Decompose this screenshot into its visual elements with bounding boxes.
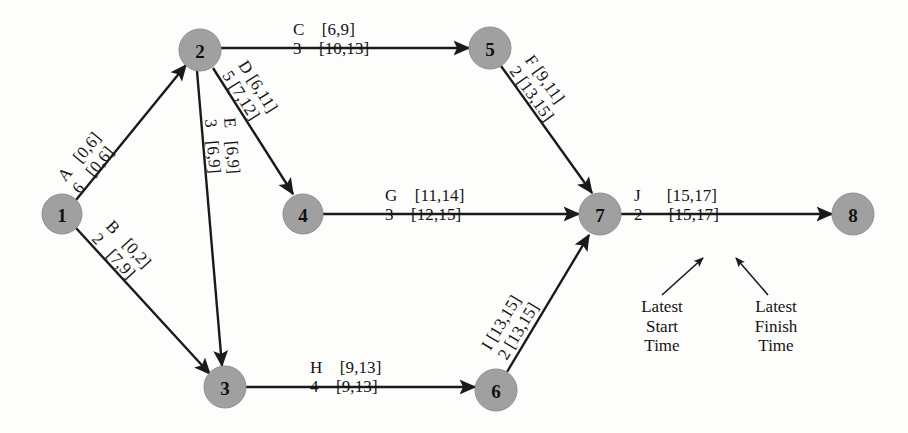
node-3-label: 3 — [220, 378, 230, 399]
edge-G-top: G [11,14] — [385, 186, 464, 205]
edge-J-top: J [15,17] — [634, 186, 719, 205]
edge-E-line — [197, 71, 222, 366]
latest-finish-line-3: Time — [718, 336, 834, 356]
edge-E-label: E [6,9] 3 [6,9] — [201, 117, 244, 177]
node-4[interactable]: 4 — [283, 194, 323, 234]
latest-finish-annotation: Latest Finish Time — [718, 297, 834, 356]
edge-H-top: H [9,13] — [310, 358, 381, 377]
edge-H-bottom: 4 [9,13] — [310, 377, 381, 396]
edge-C-label: C [6,9] 3 [10,13] — [293, 20, 369, 58]
latest-finish-line-1: Latest — [718, 297, 834, 317]
node-1[interactable]: 1 — [42, 194, 82, 234]
node-4-label: 4 — [298, 205, 308, 226]
node-8[interactable]: 8 — [832, 193, 874, 235]
latest-start-line-1: Latest — [608, 297, 716, 317]
edge-C-bottom: 3 [10,13] — [293, 39, 369, 58]
node-3[interactable]: 3 — [204, 366, 246, 408]
network-diagram-canvas: 1 2 3 4 5 6 7 — [0, 0, 908, 433]
node-7[interactable]: 7 — [579, 193, 621, 235]
latest-start-line-3: Time — [608, 336, 716, 356]
edge-C-top: C [6,9] — [293, 20, 369, 39]
node-5[interactable]: 5 — [469, 27, 511, 69]
node-2[interactable]: 2 — [179, 29, 221, 71]
latest-start-annotation: Latest Start Time — [608, 297, 716, 356]
edge-J-bottom: 2 [15,17] — [634, 205, 719, 224]
node-7-label: 7 — [595, 205, 605, 226]
edge-G-bottom: 3 [12,15] — [385, 205, 464, 224]
node-1-label: 1 — [57, 205, 67, 226]
latest-finish-line-2: Finish — [718, 317, 834, 337]
latest-finish-pointer — [736, 258, 768, 295]
edge-G-label: G [11,14] 3 [12,15] — [385, 186, 464, 224]
node-6[interactable]: 6 — [475, 369, 517, 411]
node-6-label: 6 — [491, 381, 501, 402]
edge-H-label: H [9,13] 4 [9,13] — [310, 358, 381, 396]
node-2-label: 2 — [195, 41, 205, 62]
node-5-label: 5 — [485, 39, 495, 60]
latest-start-line-2: Start — [608, 317, 716, 337]
annotation-arrows-group — [662, 258, 768, 295]
node-8-label: 8 — [848, 205, 858, 226]
edge-J-label: J [15,17] 2 [15,17] — [634, 186, 719, 224]
latest-start-pointer — [662, 258, 703, 295]
